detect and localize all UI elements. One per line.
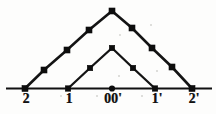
data-point-marker: [169, 64, 175, 70]
data-point-marker: [86, 27, 92, 33]
data-point-marker: [130, 65, 135, 70]
scan-speck: [60, 95, 62, 97]
axis-tick-label: 00': [104, 92, 122, 106]
scan-speck: [118, 75, 120, 77]
axis-tick-label: 1': [152, 92, 163, 106]
data-point-marker: [87, 65, 92, 70]
series-layer: [25, 11, 192, 89]
scan-speck: [96, 95, 98, 97]
scan-speck: [119, 34, 121, 36]
axis-tick-label: 2: [23, 92, 30, 106]
axis-tick-label: 1: [66, 92, 73, 106]
data-point-marker: [109, 45, 114, 50]
scan-speck: [141, 95, 143, 97]
data-point-marker: [41, 67, 47, 73]
series-line-inner-triangle: [68, 48, 155, 89]
scan-speck: [156, 70, 158, 72]
data-point-marker: [149, 45, 155, 51]
scan-speck: [150, 24, 152, 26]
axis-tick-label: 2': [189, 92, 200, 106]
data-point-marker: [109, 8, 115, 14]
figure-root: 2100'1'2': [0, 0, 216, 114]
data-point-marker: [64, 47, 70, 53]
data-point-marker: [129, 25, 135, 31]
